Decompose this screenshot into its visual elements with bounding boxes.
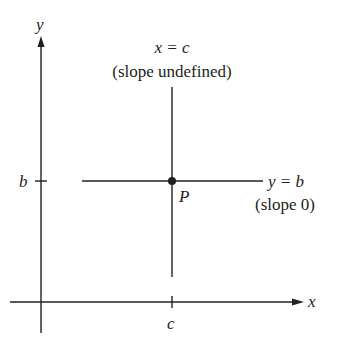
vertical-line: x = c (slope undefined) <box>112 38 231 277</box>
y-axis-arrowhead-icon <box>38 36 45 47</box>
y-axis: y <box>34 15 45 333</box>
y-axis-label: y <box>34 15 44 34</box>
x-axis: x <box>10 292 316 311</box>
coordinate-diagram: y x b c x = c (slope undefined) y = b (s… <box>0 0 340 345</box>
x-tick-label: c <box>167 314 175 333</box>
horizontal-line-note: (slope 0) <box>255 195 315 214</box>
y-tick-b: b <box>19 172 47 191</box>
x-axis-arrowhead-icon <box>292 299 304 306</box>
vertical-line-note: (slope undefined) <box>112 62 231 81</box>
vertical-line-equation: x = c <box>153 38 190 57</box>
x-axis-label: x <box>307 292 316 311</box>
horizontal-line: y = b (slope 0) <box>82 172 315 214</box>
y-tick-label: b <box>19 172 28 191</box>
point-marker-icon <box>168 177 176 185</box>
horizontal-line-equation: y = b <box>266 172 304 191</box>
point-label: P <box>178 187 189 206</box>
